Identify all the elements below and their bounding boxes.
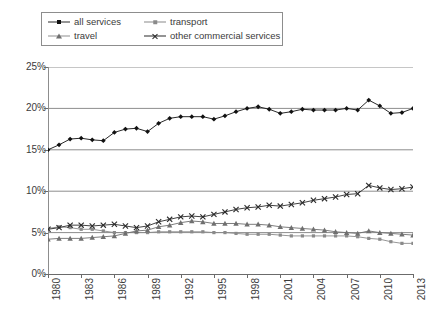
- cross-marker-icon: [144, 31, 166, 41]
- x-tick-mark: [347, 274, 348, 278]
- diamond-marker-icon: [48, 17, 70, 27]
- triangle-marker-icon: [366, 228, 371, 233]
- square-marker-icon: [190, 230, 193, 233]
- diamond-marker-icon: [134, 126, 139, 131]
- diamond-marker-icon: [123, 127, 128, 132]
- x-axis-tick-2007: 2007: [351, 278, 361, 300]
- square-marker-icon: [312, 234, 315, 237]
- square-marker-icon: [257, 233, 260, 236]
- square-marker-icon: [400, 242, 403, 245]
- y-axis-tick-0: 0%: [0, 269, 46, 279]
- x-axis-tick-2001: 2001: [284, 278, 294, 300]
- y-tick-mark: [44, 108, 48, 109]
- y-tick-mark: [44, 150, 48, 151]
- x-axis-tick-1989: 1989: [152, 278, 162, 300]
- diamond-marker-icon: [189, 114, 194, 119]
- y-tick-mark: [44, 233, 48, 234]
- y-axis-tick-5: 5%: [0, 228, 46, 238]
- series-all-services: [48, 98, 413, 152]
- x-axis-tick-1992: 1992: [185, 278, 195, 300]
- diamond-marker-icon: [212, 117, 217, 122]
- x-tick-mark: [280, 274, 281, 278]
- y-axis-tick-15: 15%: [0, 145, 46, 155]
- x-axis-tick-2004: 2004: [317, 278, 327, 300]
- x-tick-mark: [181, 274, 182, 278]
- x-tick-mark: [413, 274, 414, 278]
- diamond-marker-icon: [57, 142, 62, 147]
- legend-item-travel: travel: [48, 31, 144, 41]
- square-marker-icon: [223, 231, 226, 234]
- legend-label-all-services: all services: [74, 17, 121, 27]
- diamond-marker-icon: [300, 107, 305, 112]
- square-marker-icon: [411, 242, 413, 245]
- square-marker-icon: [179, 230, 182, 233]
- diamond-marker-icon: [344, 106, 349, 111]
- x-axis-tick-1995: 1995: [218, 278, 228, 300]
- diamond-marker-icon: [234, 109, 239, 114]
- diamond-marker-icon: [167, 116, 172, 121]
- diamond-marker-icon: [79, 136, 84, 141]
- x-tick-mark: [380, 274, 381, 278]
- legend-item-transport: transport: [144, 17, 280, 27]
- series-other-commercial-services: [48, 183, 413, 232]
- x-tick-mark: [81, 274, 82, 278]
- diamond-marker-icon: [90, 137, 95, 142]
- diamond-marker-icon: [68, 137, 73, 142]
- x-axis-tick-2010: 2010: [384, 278, 394, 300]
- x-tick-mark: [148, 274, 149, 278]
- diamond-marker-icon: [278, 111, 283, 116]
- x-axis-tick-1986: 1986: [118, 278, 128, 300]
- square-marker-icon: [334, 234, 337, 237]
- square-marker-icon: [367, 237, 370, 240]
- diamond-marker-icon: [377, 104, 382, 109]
- diamond-marker-icon: [267, 107, 272, 112]
- x-axis-tick-1998: 1998: [251, 278, 261, 300]
- square-marker-icon: [301, 234, 304, 237]
- square-marker-icon: [279, 233, 282, 236]
- x-tick-mark: [247, 274, 248, 278]
- x-tick-mark: [313, 274, 314, 278]
- square-marker-icon: [245, 233, 248, 236]
- diamond-marker-icon: [200, 114, 205, 119]
- series-canvas: [48, 67, 413, 274]
- x-axis-tick-2013: 2013: [417, 278, 427, 300]
- diamond-marker-icon: [245, 106, 250, 111]
- square-marker-icon: [91, 228, 94, 231]
- x-axis-tick-1983: 1983: [85, 278, 95, 300]
- square-marker-icon: [157, 230, 160, 233]
- square-marker-icon: [234, 232, 237, 235]
- y-tick-mark: [44, 191, 48, 192]
- square-marker-icon: [212, 231, 215, 234]
- x-tick-mark: [114, 274, 115, 278]
- diamond-marker-icon: [48, 147, 50, 152]
- square-marker-icon: [268, 233, 271, 236]
- x-axis-tick-1980: 1980: [52, 278, 62, 300]
- diamond-marker-icon: [223, 113, 228, 118]
- square-marker-icon: [323, 234, 326, 237]
- legend-label-travel: travel: [74, 31, 97, 41]
- plot-area: [48, 67, 413, 274]
- triangle-marker-icon: [48, 31, 70, 41]
- y-axis-tick-labels: 25%20%15%10%5%0%: [0, 0, 46, 309]
- y-axis-tick-20: 20%: [0, 103, 46, 113]
- diamond-marker-icon: [400, 110, 405, 115]
- diamond-marker-icon: [178, 114, 183, 119]
- square-marker-icon: [168, 230, 171, 233]
- legend-label-transport: transport: [170, 17, 208, 27]
- square-marker-icon: [144, 17, 166, 27]
- x-tick-mark: [214, 274, 215, 278]
- legend-label-other-commercial-services: other commercial services: [170, 31, 280, 41]
- diamond-marker-icon: [388, 111, 393, 116]
- y-tick-mark: [44, 67, 48, 68]
- chart-legend: all services transport travel other comm…: [41, 12, 283, 46]
- y-axis-tick-10: 10%: [0, 186, 46, 196]
- square-marker-icon: [80, 228, 83, 231]
- x-axis-line: [48, 274, 414, 275]
- square-marker-icon: [102, 229, 105, 232]
- square-marker-icon: [290, 234, 293, 237]
- series-line: [48, 185, 413, 229]
- legend-item-other-commercial-services: other commercial services: [144, 31, 280, 41]
- square-marker-icon: [389, 240, 392, 243]
- diamond-marker-icon: [411, 106, 413, 111]
